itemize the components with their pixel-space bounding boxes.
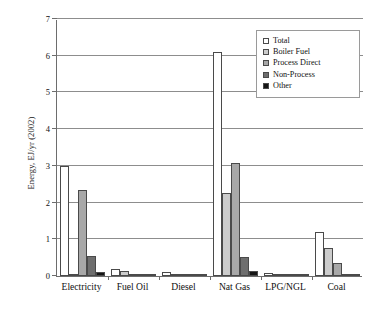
legend-item-label: Process Direct [273, 59, 321, 67]
y-axis-tick-label: 4 [35, 125, 50, 134]
x-axis-category-label: Fuel Oil [107, 281, 158, 292]
bar [264, 273, 273, 276]
bar [129, 274, 138, 276]
bar [300, 274, 309, 276]
bar [147, 274, 156, 276]
bar [342, 274, 351, 276]
legend-item: Other [263, 81, 354, 92]
y-axis-tick [52, 128, 57, 129]
x-axis-category-label: Electricity [56, 281, 107, 292]
bar [120, 271, 129, 276]
x-axis-tick [312, 276, 313, 280]
y-axis-tick [52, 238, 57, 239]
x-axis-category-label: Diesel [158, 281, 209, 292]
y-axis-tick [52, 18, 57, 19]
x-axis-tick [261, 276, 262, 280]
legend-item: Non-Process [263, 69, 354, 80]
bar [162, 272, 171, 276]
y-axis-tick-label: 5 [35, 88, 50, 97]
legend-item-label: Non-Process [273, 71, 315, 79]
bar-group [213, 19, 258, 276]
bar [231, 163, 240, 276]
legend-swatch-icon [263, 49, 269, 55]
y-axis-tick-label: 6 [35, 52, 50, 61]
bar [240, 257, 249, 276]
bar [324, 248, 333, 276]
bar [315, 232, 324, 276]
y-axis-tick-label: 7 [35, 15, 50, 24]
x-axis-tick [108, 276, 109, 280]
y-axis-tick-label: 3 [35, 162, 50, 171]
x-axis-tick [159, 276, 160, 280]
bar [222, 193, 231, 276]
bar [138, 274, 147, 276]
y-axis-tick-label: 2 [35, 199, 50, 208]
legend-swatch-icon [263, 60, 269, 66]
bar [291, 274, 300, 276]
y-axis-tick-label: 0 [35, 272, 50, 281]
legend-swatch-icon [263, 83, 269, 89]
legend-swatch-icon [263, 72, 269, 78]
bar [60, 166, 69, 276]
legend-item-label: Total [273, 37, 290, 45]
x-axis-category-label: Nat Gas [209, 281, 260, 292]
legend-item-label: Other [273, 82, 292, 90]
y-axis-tick [52, 55, 57, 56]
bar [96, 272, 105, 276]
legend-item: Boiler Fuel [263, 46, 354, 57]
bar [180, 274, 189, 276]
y-axis-tick [52, 202, 57, 203]
bar-group [60, 19, 105, 276]
bar [87, 256, 96, 276]
bar [282, 274, 291, 276]
legend-item: Process Direct [263, 58, 354, 69]
legend-swatch-icon [263, 38, 269, 44]
chart-legend: TotalBoiler FuelProcess DirectNon-Proces… [256, 30, 360, 98]
bar [189, 274, 198, 276]
bar [273, 274, 282, 276]
bar [249, 271, 258, 276]
y-axis-tick [52, 165, 57, 166]
bar-group [162, 19, 207, 276]
y-axis-tick [52, 275, 57, 276]
bar-chart-figure: Energy, EJ/yr (2002) 01234567 Electricit… [0, 0, 375, 313]
x-axis-category-label: LPG/NGL [260, 281, 311, 292]
bar [351, 274, 360, 276]
bar [78, 190, 87, 276]
bar [198, 274, 207, 276]
x-axis-category-label: Coal [311, 281, 362, 292]
y-axis-tick [52, 91, 57, 92]
bar-group [111, 19, 156, 276]
bar [111, 269, 120, 276]
bar [69, 274, 78, 276]
legend-item: Total [263, 35, 354, 46]
y-axis-tick-label: 1 [35, 235, 50, 244]
x-axis-tick [210, 276, 211, 280]
bar [213, 52, 222, 276]
bar [171, 274, 180, 276]
bar [333, 263, 342, 276]
legend-item-label: Boiler Fuel [273, 48, 310, 56]
